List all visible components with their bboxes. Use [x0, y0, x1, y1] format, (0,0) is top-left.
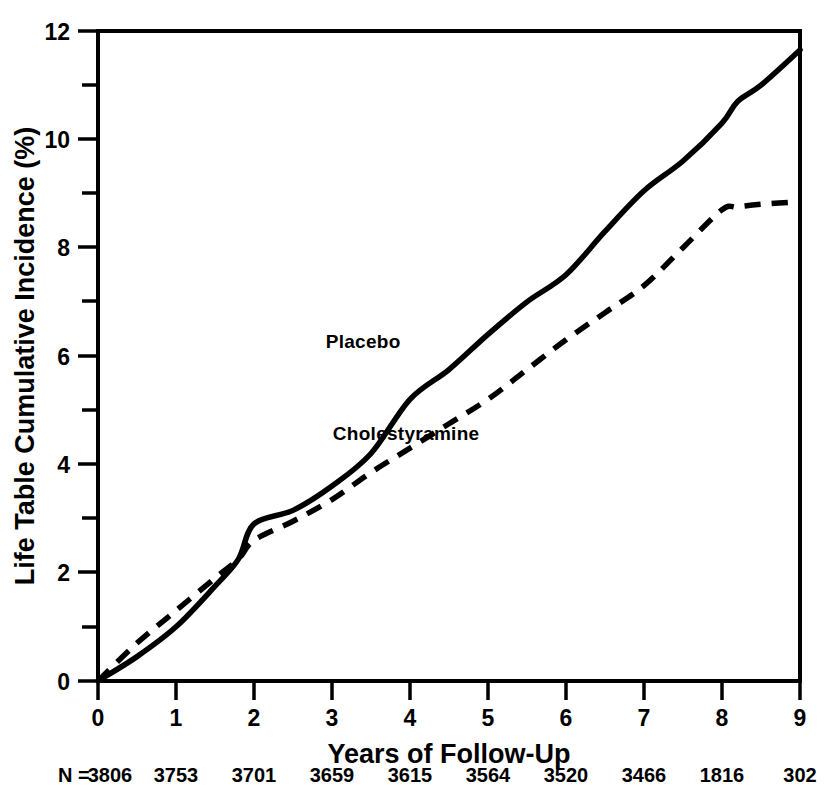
- x-tick-label: 5: [482, 705, 495, 731]
- at-risk-prefix: N =: [58, 764, 90, 786]
- y-tick-label: 2: [57, 560, 70, 586]
- y-tick-label: 10: [44, 127, 70, 153]
- y-tick-label: 12: [44, 19, 70, 45]
- at-risk-value: 3806: [88, 764, 133, 786]
- at-risk-value: 3753: [154, 764, 199, 786]
- at-risk-value: 1816: [700, 764, 745, 786]
- x-tick-label: 7: [638, 705, 651, 731]
- x-tick-label: 9: [794, 705, 807, 731]
- at-risk-value: 3564: [466, 764, 511, 786]
- x-tick-label: 1: [170, 705, 183, 731]
- series-annotation-placebo: Placebo: [326, 331, 401, 352]
- chart-figure: 12 10 8 6 4 2 0 0 1 2 3 4: [0, 0, 825, 793]
- x-tick-label: 8: [716, 705, 729, 731]
- line-chart: 12 10 8 6 4 2 0 0 1 2 3 4: [0, 0, 825, 793]
- y-tick-label: 0: [57, 669, 70, 695]
- x-tick-label: 6: [560, 705, 573, 731]
- x-axis-ticks: [98, 681, 800, 700]
- y-tick-label: 6: [57, 344, 70, 370]
- x-axis-title: Years of Follow-Up: [327, 739, 570, 769]
- y-axis-tick-labels: 12 10 8 6 4 2 0: [44, 19, 70, 695]
- y-axis-title: Life Table Cumulative Incidence (%): [10, 127, 40, 586]
- x-axis-tick-labels: 0 1 2 3 4 5 6 7 8 9: [92, 705, 807, 731]
- at-risk-value: 3520: [544, 764, 589, 786]
- at-risk-value: 3615: [388, 764, 433, 786]
- at-risk-value: 3701: [232, 764, 277, 786]
- y-axis-major-ticks: [78, 31, 98, 681]
- y-tick-label: 4: [57, 452, 70, 478]
- x-tick-label: 3: [326, 705, 339, 731]
- y-tick-label: 8: [57, 235, 70, 261]
- x-tick-label: 0: [92, 705, 105, 731]
- x-tick-label: 2: [248, 705, 261, 731]
- series-annotation-cholestyramine: Cholestyramine: [333, 423, 480, 444]
- at-risk-value: 302: [783, 764, 816, 786]
- at-risk-value: 3466: [622, 764, 667, 786]
- x-tick-label: 4: [404, 705, 417, 731]
- at-risk-value: 3659: [310, 764, 355, 786]
